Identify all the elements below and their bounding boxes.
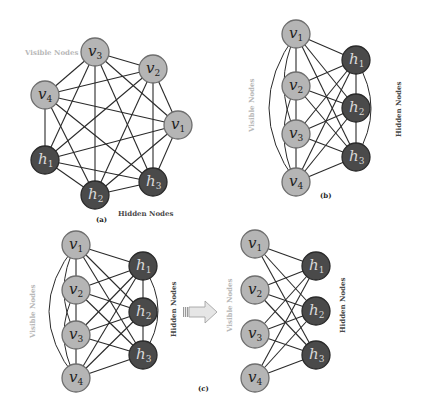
node-v4: v4 [62, 364, 90, 392]
node-v2: v2 [62, 276, 90, 304]
node-v1: v1 [62, 231, 90, 259]
node-h3: h3 [302, 341, 330, 369]
node-v2: v2 [241, 276, 269, 304]
arrow-icon [189, 301, 217, 323]
edge-v4-v1 [45, 95, 178, 125]
node-h1: h1 [31, 146, 59, 174]
node-v2: v2 [282, 72, 310, 100]
node-v4: v4 [241, 364, 269, 392]
node-h2: h2 [129, 298, 157, 326]
node-h1: h1 [302, 252, 330, 280]
panel-c-right-hidden-label: Hidden Nodes [338, 278, 347, 333]
arc-v1-v4 [269, 34, 296, 182]
node-h2: h2 [342, 94, 370, 122]
node-v3: v3 [81, 38, 109, 66]
arrow-tail-stripe [183, 307, 184, 317]
node-v1: v1 [164, 111, 192, 139]
panel-a-caption: (a) [96, 215, 107, 224]
node-v1: v1 [241, 230, 269, 258]
panel-c-left-visible-label: Visible Nodes [28, 285, 37, 339]
node-h1: h1 [342, 46, 370, 74]
boltzmann-machine-figure: v3v2v4v1h1h2h3v1v2v3v4h1h2h3v1v2v3v4h1h2… [0, 0, 426, 413]
node-v1: v1 [282, 20, 310, 48]
arc-v1-v4 [49, 245, 76, 378]
node-v4: v4 [282, 168, 310, 196]
node-h2: h2 [302, 297, 330, 325]
node-h3: h3 [139, 168, 167, 196]
panel-b-visible-label: Visible Nodes [247, 79, 256, 133]
node-h1: h1 [129, 252, 157, 280]
panel-a-visible-label: Visible Nodes [24, 48, 78, 57]
node-h2: h2 [81, 181, 109, 209]
node-v4: v4 [31, 81, 59, 109]
node-h3: h3 [129, 341, 157, 369]
node-v2: v2 [139, 55, 167, 83]
panel-c-left-hidden-label: Hidden Nodes [169, 282, 178, 337]
node-v3: v3 [282, 120, 310, 148]
node-v3: v3 [62, 321, 90, 349]
arrow-tail-stripe [185, 307, 186, 317]
panel-c-right-visible-label: Visible Nodes [225, 279, 234, 333]
panel-b-hidden-label: Hidden Nodes [394, 82, 403, 137]
node-h3: h3 [342, 143, 370, 171]
transform-arrow [183, 301, 217, 323]
arrow-tail-stripe [187, 307, 188, 317]
panel-b-caption: (b) [320, 191, 332, 200]
panel-a-hidden-label: Hidden Nodes [118, 209, 173, 218]
node-v3: v3 [241, 320, 269, 348]
edge-v4-h3 [45, 95, 153, 182]
panel-c-caption: (c) [198, 384, 209, 393]
